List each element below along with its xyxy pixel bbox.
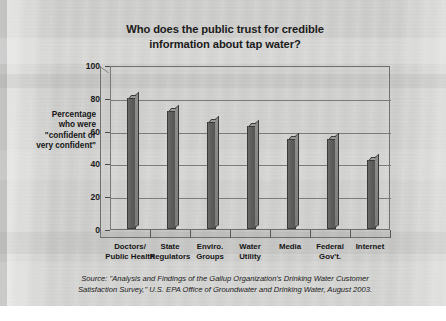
bar	[127, 98, 136, 229]
y-axis-tick-label: 100	[76, 61, 100, 71]
bar	[327, 139, 336, 229]
bar-side-face	[215, 116, 219, 228]
x-axis-label-line: Internet	[339, 242, 401, 252]
y-axis-tick	[105, 99, 110, 100]
y-axis-title-line-4: very confident"	[22, 141, 96, 151]
y-axis-tick	[105, 164, 110, 165]
x-axis-tick	[350, 230, 351, 238]
source-note: Source: "Analysis and Findings of the Ga…	[42, 274, 408, 295]
axis-floor	[100, 230, 390, 238]
bar-side-face	[335, 133, 339, 228]
x-axis-tick	[230, 230, 231, 238]
x-axis-tick	[390, 230, 391, 238]
x-axis-tick	[310, 230, 311, 238]
chart-title: Who does the public trust for credible i…	[60, 22, 390, 51]
y-axis-tick-label: 20	[76, 192, 100, 202]
y-axis-tick-label: 80	[76, 94, 100, 104]
x-axis-tick	[270, 230, 271, 238]
source-note-line-2: Satisfaction Survey," U.S. EPA Office of…	[42, 285, 408, 296]
bar-side-face	[255, 120, 259, 228]
y-axis-tick-label: 40	[76, 159, 100, 169]
x-axis-label: Internet	[339, 242, 401, 252]
bar	[287, 139, 296, 229]
slide-canvas: Who does the public trust for credible i…	[0, 0, 446, 306]
chart-title-line-1: Who does the public trust for credible	[60, 22, 390, 37]
y-axis-tick	[105, 197, 110, 198]
x-axis-tick	[150, 230, 151, 238]
y-axis-tick-label: 60	[76, 127, 100, 137]
bar	[247, 126, 256, 229]
bar-side-face	[175, 105, 179, 228]
y-axis-tick-label: 0	[76, 225, 100, 235]
bar	[207, 122, 216, 229]
bar	[167, 111, 176, 229]
x-axis-tick	[190, 230, 191, 238]
bar-side-face	[135, 92, 139, 228]
y-axis-tick	[105, 230, 110, 231]
gridline	[111, 100, 391, 101]
bar-side-face	[375, 154, 379, 228]
x-axis-label-line: Gov't.	[299, 252, 361, 262]
plot-area	[110, 66, 390, 230]
chart-title-line-2: information about tap water?	[60, 37, 390, 52]
y-axis-tick	[105, 66, 110, 67]
bar	[367, 160, 376, 229]
y-axis-title-line-1: Percentage	[22, 110, 96, 120]
y-axis-tick	[105, 132, 110, 133]
x-axis-label-line: Utility	[219, 252, 281, 262]
source-note-line-1: Source: "Analysis and Findings of the Ga…	[42, 274, 408, 285]
bar-side-face	[295, 133, 299, 228]
bar-chart: Percentage who were "confident or very c…	[100, 66, 390, 238]
